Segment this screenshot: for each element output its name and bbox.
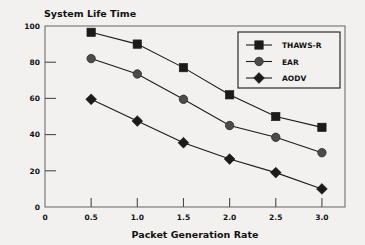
chart-container: System Life Time 020406080100 00.51.01.5… — [0, 0, 365, 245]
data-point — [272, 133, 280, 141]
data-point — [225, 91, 233, 99]
legend-marker-circle-icon — [255, 57, 263, 65]
legend-label: THAWS-R — [282, 41, 322, 50]
y-tick-label: 80 — [30, 58, 40, 67]
x-tick-label: 3.0 — [315, 213, 328, 222]
data-point — [133, 40, 141, 48]
data-point — [87, 54, 95, 62]
y-tick-label: 40 — [30, 130, 40, 139]
x-axis-title: Packet Generation Rate — [132, 229, 259, 240]
x-tick-label: 1.5 — [177, 213, 190, 222]
data-point — [87, 28, 95, 36]
x-tick-label: 0 — [42, 213, 47, 222]
y-tick-label: 0 — [35, 203, 40, 212]
data-point — [179, 95, 187, 103]
y-tick-label: 100 — [24, 22, 40, 31]
chart-title: System Life Time — [44, 8, 136, 19]
data-point — [133, 70, 141, 78]
data-point — [318, 123, 326, 131]
legend-marker-square-icon — [255, 41, 263, 49]
legend-label: EAR — [282, 58, 299, 67]
data-point — [225, 121, 233, 129]
legend-label: AODV — [282, 74, 306, 83]
data-point — [318, 149, 326, 157]
x-tick-label: 2.5 — [269, 213, 282, 222]
data-point — [179, 63, 187, 71]
chart-legend: THAWS-REARAODV — [238, 32, 340, 88]
x-tick-label: 1.0 — [131, 213, 144, 222]
y-tick-label: 20 — [30, 167, 40, 176]
legend-item-thaws-r[interactable]: THAWS-R — [246, 41, 322, 50]
data-point — [272, 112, 280, 120]
x-tick-label: 0.5 — [85, 213, 98, 222]
y-tick-label: 60 — [30, 94, 40, 103]
x-tick-label: 2.0 — [223, 213, 236, 222]
system-life-time-chart: System Life Time 020406080100 00.51.01.5… — [0, 0, 365, 245]
